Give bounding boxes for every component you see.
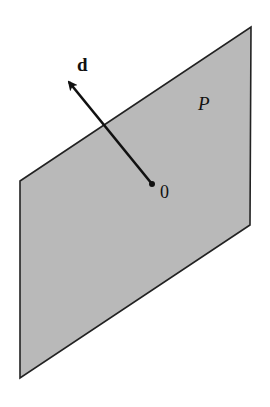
plane-vector-diagram: d P 0 <box>0 0 270 407</box>
origin-label-0: 0 <box>160 182 169 202</box>
plane-label-P: P <box>197 93 210 114</box>
plane-P <box>20 27 251 378</box>
origin-point <box>149 181 155 187</box>
vector-label-d: d <box>77 54 88 75</box>
